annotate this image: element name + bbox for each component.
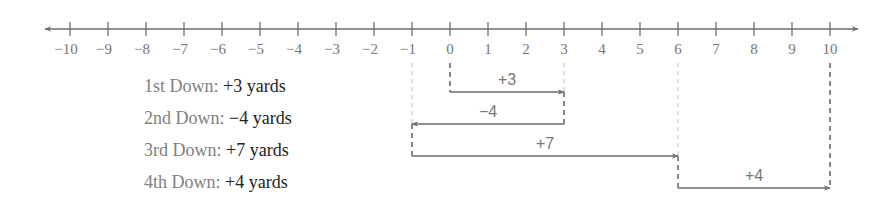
down-entry: 3rd Down: +7 yards [144,140,289,160]
tick-label: 8 [750,41,758,57]
down-name: 1st Down: [144,76,223,96]
tick-label: 10 [823,41,838,57]
down-yards: +7 yards [226,140,289,160]
down-entry: 2nd Down: −4 yards [144,108,292,128]
tick-label: −2 [362,41,378,57]
tick-label: −9 [96,41,112,57]
down-entry: 1st Down: +3 yards [144,76,286,96]
tick-label: 4 [598,41,606,57]
tick-label: −10 [54,41,77,57]
tick-label: 9 [788,41,796,57]
down-name: 4th Down: [144,172,225,192]
down-arrows: +3−4+7+4 [412,71,830,188]
down-yards: +4 yards [225,172,288,192]
down-name: 3rd Down: [144,140,226,160]
tick-label: 0 [446,41,454,57]
tick-label: 6 [674,41,682,57]
tick-label: 7 [712,41,720,57]
tick-label: −8 [134,41,150,57]
down-yards: +3 yards [223,76,286,96]
tick-label: −3 [324,41,340,57]
guide-lines [412,63,830,188]
tick-label: −6 [210,41,226,57]
move-label: +7 [536,135,554,152]
tick-label: 3 [560,41,568,57]
move-label: +3 [498,71,516,88]
tick-label: −5 [248,41,264,57]
tick-label: −7 [172,41,188,57]
tick-label: 1 [484,41,492,57]
move-label: +4 [745,167,763,184]
down-entry: 4th Down: +4 yards [144,172,288,192]
tick-label: 2 [522,41,530,57]
tick-label: −1 [400,41,416,57]
move-label: −4 [479,103,497,120]
number-line-diagram: −10−9−8−7−6−5−4−3−2−1012345678910 +3−4+7… [0,0,896,209]
tick-label: 5 [636,41,644,57]
downs-list: 1st Down: +3 yards2nd Down: −4 yards3rd … [144,76,292,192]
down-name: 2nd Down: [144,108,229,128]
number-line: −10−9−8−7−6−5−4−3−2−1012345678910 [45,22,858,57]
tick-label: −4 [286,41,302,57]
down-yards: −4 yards [229,108,292,128]
